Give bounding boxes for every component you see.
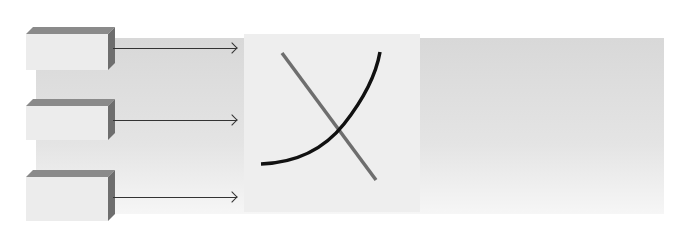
arrow-right-icon <box>113 197 237 198</box>
as-curve <box>261 52 380 164</box>
arrow-right-icon <box>113 120 237 121</box>
as-ad-chart <box>244 34 420 212</box>
arrow-right-icon <box>113 48 237 49</box>
ad-curve <box>282 53 376 180</box>
as-ad-curves <box>244 34 420 212</box>
